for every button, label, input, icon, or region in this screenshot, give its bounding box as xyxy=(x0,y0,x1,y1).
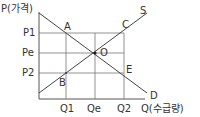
point-e-label: E xyxy=(126,64,132,75)
x-axis-label: Q(수급량) xyxy=(141,103,184,114)
equilibrium-point xyxy=(93,51,96,54)
tick-p1: P1 xyxy=(23,27,35,38)
supply-label: S xyxy=(140,5,146,16)
point-a-label: A xyxy=(64,21,71,32)
tick-p2: P2 xyxy=(22,67,34,78)
tick-q2: Q2 xyxy=(117,103,131,114)
y-axis-label: P(가격) xyxy=(1,2,33,14)
point-b-label: B xyxy=(59,77,66,88)
demand-label: D xyxy=(150,90,158,101)
tick-qe: Qe xyxy=(87,103,101,114)
point-b-dot xyxy=(65,72,67,74)
point-o-label: O xyxy=(100,47,108,58)
tick-pe: Pe xyxy=(22,47,34,58)
supply-demand-diagram: P(가격) Q(수급량) P1 Pe P2 Q1 Qe Q2 S D A C O… xyxy=(0,0,200,117)
tick-q1: Q1 xyxy=(60,103,74,114)
point-c-label: C xyxy=(122,19,129,30)
